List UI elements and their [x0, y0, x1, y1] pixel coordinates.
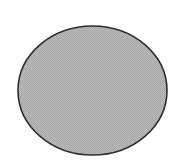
- gray-ellipse: [18, 26, 167, 155]
- diagram-canvas: [0, 0, 172, 164]
